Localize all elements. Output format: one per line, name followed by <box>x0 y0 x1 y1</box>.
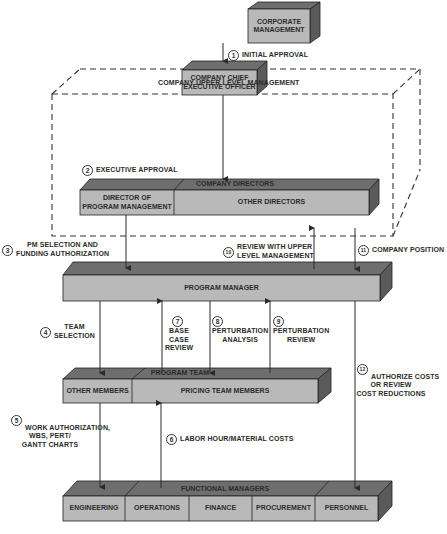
unit-personnel: PERSONNEL <box>315 496 378 521</box>
step-11-label: 11COMPANY POSITION <box>358 245 444 256</box>
step-8-label: 8PERTURBATIONANALYSIS <box>212 316 268 344</box>
step-4-label: 4TEAMSELECTION <box>40 323 95 340</box>
unit-procurement: PROCUREMENT <box>252 496 315 521</box>
functional-managers-title: FUNCTIONAL MANAGERS <box>160 483 290 495</box>
step-1-label: 1INITIAL APPROVAL <box>228 50 308 61</box>
step-2-label: 2EXECUTIVE APPROVAL <box>82 165 178 176</box>
step-4-badge: 4 <box>40 327 51 338</box>
step-9-badge: 9 <box>273 316 284 327</box>
other-directors-label: OTHER DIRECTORS <box>174 190 369 215</box>
step-3-badge: 3 <box>2 245 13 256</box>
pricing-team-members-label: PRICING TEAM MEMBERS <box>132 379 318 403</box>
program-team-title: PROGRAM TEAM <box>140 368 220 379</box>
step-12-label: 12AUTHORIZE COSTSOR REVIEWCOST REDUCTION… <box>355 364 427 398</box>
step-10-badge: 10 <box>223 247 234 258</box>
step-3-label: 3PM SELECTION ANDFUNDING AUTHORIZATION <box>2 241 109 258</box>
step-7-label: 7BASECASEREVIEW <box>164 316 194 353</box>
step-7-badge: 7 <box>172 316 183 327</box>
other-members-label: OTHER MEMBERS <box>63 379 132 403</box>
step-1-badge: 1 <box>228 50 239 61</box>
step-8-badge: 8 <box>212 316 223 327</box>
step-12-badge: 12 <box>357 364 368 375</box>
unit-operations: OPERATIONS <box>125 496 189 521</box>
boundary-label: COMPANY UPPER LEVEL MANAGEMENT <box>158 79 299 88</box>
step-10-label: 10REVIEW WITH UPPERLEVEL MANAGEMENT <box>223 243 314 260</box>
step-5-label: 5WORK AUTHORIZATION,WBS, PERT/GANTT CHAR… <box>8 415 92 449</box>
director-pm-label: DIRECTOR OF PROGRAM MANAGEMENT <box>80 190 174 215</box>
step-9-label: 9PERTURBATIONREVIEW <box>273 316 329 344</box>
company-directors-title: COMPANY DIRECTORS <box>180 179 290 190</box>
unit-finance: FINANCE <box>189 496 252 521</box>
corporate-management-label: CORPORATE MANAGEMENT <box>248 9 310 43</box>
step-5-badge: 5 <box>11 415 22 426</box>
unit-engineering: ENGINEERING <box>63 496 125 521</box>
step-6-badge: 6 <box>166 434 177 445</box>
step-6-label: 6LABOR HOUR/MATERIAL COSTS <box>166 434 293 445</box>
program-manager-label: PROGRAM MANAGER <box>63 275 380 301</box>
step-11-badge: 11 <box>358 245 369 256</box>
step-2-badge: 2 <box>82 165 93 176</box>
